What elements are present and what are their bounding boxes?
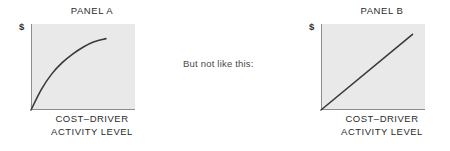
panel-a-y-axis-label: $ (19, 22, 24, 32)
panel-b-y-axis-label: $ (309, 22, 314, 32)
panel-a: PANEL A $ COST–DRIVER ACTIVITY LEVEL (12, 0, 172, 151)
panel-b: PANEL B $ COST–DRIVER ACTIVITY LEVEL (302, 0, 450, 151)
cost-behavior-figure: PANEL A $ COST–DRIVER ACTIVITY LEVEL But… (0, 0, 450, 151)
panel-a-title: PANEL A (12, 5, 172, 16)
panel-a-plot: $ (31, 24, 135, 110)
middle-note: But not like this: (183, 58, 287, 69)
panel-a-curve (31, 24, 135, 110)
panel-b-curve (321, 24, 425, 110)
panel-a-x-axis-caption: COST–DRIVER ACTIVITY LEVEL (16, 113, 168, 138)
panel-b-title: PANEL B (302, 5, 450, 16)
panel-b-x-axis-caption: COST–DRIVER ACTIVITY LEVEL (306, 113, 450, 138)
panel-b-caption-line-1: COST–DRIVER (306, 113, 450, 126)
panel-a-caption-line-1: COST–DRIVER (16, 113, 168, 126)
panel-a-caption-line-2: ACTIVITY LEVEL (16, 126, 168, 139)
panel-b-caption-line-2: ACTIVITY LEVEL (306, 126, 450, 139)
panel-b-plot: $ (321, 24, 425, 110)
